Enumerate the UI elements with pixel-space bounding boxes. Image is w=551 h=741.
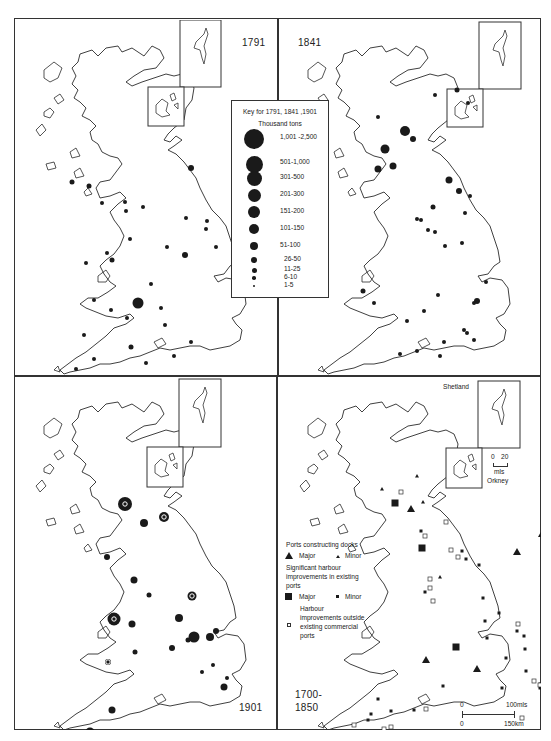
legend-harbour-heading-line: ports: [286, 581, 359, 590]
panel-year-label: 1901: [239, 702, 262, 713]
port-tonnage-circle: [169, 645, 175, 651]
major-dock-triangle: [513, 548, 521, 555]
port-tonnage-circle: [125, 316, 129, 320]
port-tonnage-circle: [133, 650, 138, 655]
port-tonnage-circle: [82, 333, 86, 337]
island-outline: [36, 480, 46, 492]
island-outline: [418, 338, 430, 348]
port-tonnage-circle: [205, 219, 209, 223]
port-tonnage-circle: [109, 308, 113, 312]
minor-harbour-square: [370, 713, 373, 716]
port-tonnage-circle: [443, 244, 447, 248]
port-tonnage-circle: [163, 323, 167, 327]
port-tonnage-circle: [92, 298, 96, 302]
major-harbour-square: [392, 500, 399, 507]
outside-harbour-open-square: [352, 723, 356, 727]
island-outline: [418, 694, 430, 704]
port-tonnage-circle: [189, 340, 193, 344]
port-tonnage-circle: [466, 101, 470, 105]
port-tonnage-circle: [87, 184, 92, 189]
port-tonnage-circle: [465, 331, 469, 335]
port-tonnage-circle: [184, 216, 188, 220]
port-tonnage-circle: [398, 352, 402, 356]
minor-harbour-square: [523, 635, 526, 638]
port-tonnage-circle: [175, 614, 183, 622]
port-tonnage-circle: [442, 340, 446, 344]
port-tonnage-circle: [129, 345, 134, 350]
tonnage-circle-icon: [246, 156, 263, 173]
scale-bar-miles: 100mls: [506, 700, 527, 709]
key-row-label: 51-100: [280, 241, 301, 248]
port-tonnage-circle: [400, 126, 410, 136]
tonnage-circle-icon: [249, 224, 259, 234]
scale-bar-zero-bottom: 0: [460, 719, 464, 728]
port-tonnage-circle: [118, 497, 132, 511]
orkney-inset-frame: [148, 87, 184, 126]
port-tonnage-circle: [221, 684, 228, 691]
legend-harbour-major: Major: [299, 592, 316, 601]
port-tonnage-circle: [361, 289, 366, 294]
port-tonnage-circle: [141, 205, 145, 209]
legend-harbour-minor: Minor: [345, 592, 362, 601]
legend-outside-line: improvements outside: [300, 613, 365, 622]
port-tonnage-circle: [186, 638, 191, 643]
port-tonnage-circle: [410, 136, 416, 142]
legend-docks-major: Major: [299, 551, 316, 560]
island-outline: [44, 108, 54, 118]
port-tonnage-circle: [419, 218, 423, 222]
tonnage-circle-icon: [252, 268, 257, 273]
port-tonnage-circle: [109, 707, 116, 714]
outside-harbour-open-square: [424, 707, 428, 711]
inset-scale-zero: 0: [491, 452, 495, 461]
port-tonnage-circle: [472, 338, 476, 342]
legend-docks-minor: Minor: [345, 551, 362, 560]
tonnage-circle-icon: [251, 257, 257, 263]
key-row: 26-50: [232, 255, 328, 265]
port-tonnage-circle: [415, 217, 419, 221]
minor-dock-triangle: [415, 474, 419, 478]
island-outline: [44, 62, 62, 82]
island-outline: [54, 94, 64, 104]
port-tonnage-circle: [213, 628, 219, 634]
minor-harbour-square: [478, 564, 481, 567]
port-tonnage-circle: [204, 227, 208, 231]
port-tonnage-circle: [188, 592, 197, 601]
outside-harbour-open-square: [431, 599, 435, 603]
minor-harbour-square: [498, 612, 501, 615]
port-tonnage-circle: [376, 115, 380, 119]
island-outline: [70, 504, 80, 514]
major-dock-triangle: [422, 656, 430, 663]
tonnage-circle-icon: [248, 189, 261, 202]
key-row-label: 6-10: [284, 273, 297, 280]
port-tonnage-circle: [433, 93, 437, 97]
port-tonnage-circle: [433, 230, 437, 234]
port-tonnage-circle: [426, 228, 430, 232]
key-row: 201-300: [232, 190, 328, 200]
port-tonnage-circle: [438, 354, 442, 358]
island-outline: [308, 464, 318, 474]
minor-dock-triangle: [421, 500, 425, 504]
port-tonnage-circle: [128, 237, 132, 241]
orkney-inset-frame: [147, 447, 183, 487]
minor-harbour-square: [486, 637, 489, 640]
port-tonnage-circle: [206, 633, 214, 641]
island-outline: [334, 504, 344, 514]
key-row: 151-200: [232, 207, 328, 217]
minor-dock-triangle: [380, 487, 384, 491]
minor-harbour-square: [424, 591, 427, 594]
panel-year-label: 1841: [298, 37, 321, 48]
island-outline: [46, 162, 56, 170]
port-tonnage-circle: [105, 251, 109, 255]
scale-bar-tick-left: [462, 711, 463, 718]
tonnage-circle-icon: [244, 129, 264, 149]
tonnage-circle-icon: [250, 242, 258, 250]
minor-harbour-square: [465, 558, 468, 561]
island-outline: [338, 168, 348, 178]
island-outline: [334, 148, 344, 158]
port-tonnage-circle: [129, 621, 136, 628]
port-tonnage-circle: [104, 554, 110, 560]
island-outline: [44, 418, 62, 438]
outside-harbour-open-square: [423, 534, 427, 538]
key-row: 1,001 -2,500: [232, 130, 328, 140]
panel-year-label-line2: 1850: [295, 702, 318, 713]
